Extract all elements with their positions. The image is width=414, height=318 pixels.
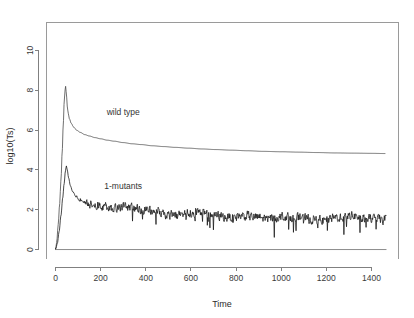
y-tick-label: 0 <box>25 247 35 252</box>
y-tick-label: 8 <box>25 88 35 93</box>
y-tick-label: 4 <box>25 167 35 172</box>
chart-plot-area: 0200400600800100012001400 0246810 wild t… <box>0 0 414 318</box>
x-axis-title: Time <box>212 299 232 309</box>
x-tick-label: 1400 <box>362 273 381 283</box>
x-tick-label: 0 <box>53 273 58 283</box>
x-tick-label: 600 <box>184 273 198 283</box>
y-tick-label: 2 <box>25 207 35 212</box>
annotation-wild-type: wild type <box>106 107 140 117</box>
annotation-1-mutants: 1-mutants <box>104 181 142 191</box>
x-tick-label: 1000 <box>272 273 291 283</box>
x-tick-label: 1200 <box>317 273 336 283</box>
y-tick-label: 10 <box>25 45 35 55</box>
x-tick-label: 800 <box>229 273 243 283</box>
y-axis-title: log10(Ts) <box>5 127 15 164</box>
x-tick-label: 400 <box>139 273 153 283</box>
x-tick-label: 200 <box>94 273 108 283</box>
chart-container: 0200400600800100012001400 0246810 wild t… <box>0 0 414 318</box>
y-tick-label: 6 <box>25 127 35 132</box>
